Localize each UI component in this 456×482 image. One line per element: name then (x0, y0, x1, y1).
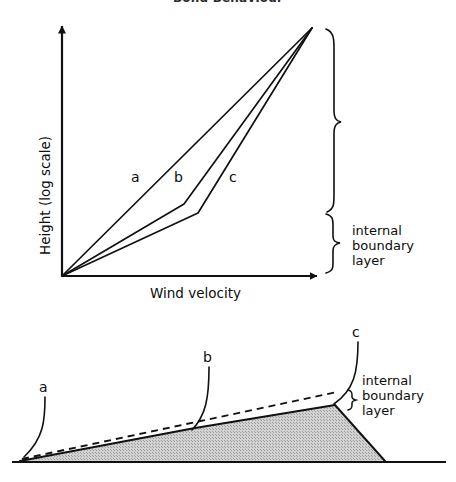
upper-ibl-line-3: layer (352, 253, 414, 268)
lower-internal-boundary-layer-brace (348, 390, 356, 410)
lower-ibl-line-1: internal (362, 373, 424, 388)
lower-ibl-line-2: boundary (362, 388, 424, 403)
lower-ibl-line-3: layer (362, 403, 424, 418)
internal-boundary-layer-brace (326, 214, 340, 273)
lower-internal-boundary-layer-label: internal boundary layer (362, 373, 424, 418)
outer-brace (326, 29, 341, 212)
profile-label-c: c (229, 169, 237, 185)
lower-brace-group (348, 390, 356, 410)
profile-curve-a (62, 28, 312, 276)
y-axis-label: Height (log scale) (37, 136, 53, 255)
upper-internal-boundary-layer-label: internal boundary layer (352, 223, 414, 268)
x-axis-label: Wind velocity (150, 285, 241, 301)
upper-braces (326, 29, 341, 273)
profile-label-a: a (131, 169, 140, 185)
station-label-a: a (39, 379, 48, 395)
upper-ibl-line-1: internal (352, 223, 414, 238)
leader-line-a (24, 397, 45, 457)
figure-root: Bond Behaviour (0, 0, 456, 482)
profile-label-b: b (174, 169, 183, 185)
leader-line-c (334, 342, 358, 404)
wind-profile-curves (62, 28, 312, 276)
station-label-b: b (203, 349, 212, 365)
upper-ibl-line-2: boundary (352, 238, 414, 253)
station-label-c: c (352, 324, 360, 340)
